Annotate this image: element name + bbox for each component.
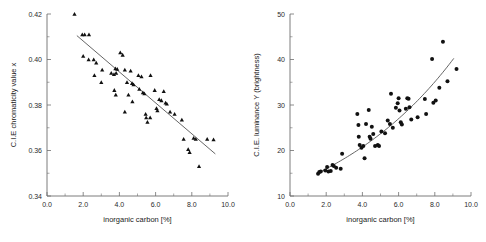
data-point [394, 106, 398, 110]
data-point [363, 156, 367, 160]
x-axis-tick-label: 10.0 [221, 201, 235, 208]
x-axis-tick-label: 2.0 [78, 201, 88, 208]
data-point [430, 57, 434, 61]
data-point [388, 122, 392, 126]
data-point [379, 129, 383, 133]
data-point [339, 167, 343, 171]
y-axis-title: C.I.E chromaticity value x [9, 62, 18, 147]
data-point [168, 110, 172, 114]
chart-panel-left: 0.02.04.06.08.010.00.340.360.380.400.42i… [0, 0, 243, 242]
x-axis-tick-label: 8.0 [187, 201, 197, 208]
y-axis-tick-label: 0.40 [28, 56, 42, 63]
x-axis-tick-label: 8.0 [430, 201, 440, 208]
x-axis-tick-label: 10.0 [464, 201, 478, 208]
data-point [180, 118, 184, 122]
data-point [407, 97, 411, 101]
data-point-group [72, 12, 215, 168]
data-point [361, 144, 365, 148]
data-point [205, 137, 209, 141]
y-axis-tick-label: 30 [277, 102, 285, 109]
data-point [407, 105, 411, 109]
x-axis-title: inorganic carbon [%] [346, 215, 414, 224]
data-point [329, 169, 333, 173]
data-point [211, 137, 215, 141]
data-point [455, 67, 459, 71]
data-point [118, 51, 122, 55]
data-point [123, 110, 127, 114]
data-point [136, 73, 140, 77]
data-point [87, 32, 91, 36]
x-axis-tick-label: 4.0 [358, 201, 368, 208]
data-point [72, 12, 76, 16]
data-point [370, 125, 374, 129]
data-point [126, 93, 130, 97]
data-point [404, 107, 408, 111]
data-point [123, 68, 127, 72]
data-point [391, 126, 395, 130]
y-axis-tick-label: 20 [277, 147, 285, 154]
data-point [325, 165, 329, 169]
axis-frame [47, 14, 228, 196]
data-point [197, 164, 201, 168]
data-point [130, 99, 134, 103]
data-point [100, 68, 104, 72]
x-axis-tick-label: 2.0 [321, 201, 331, 208]
data-point [92, 73, 96, 77]
data-point [148, 115, 152, 119]
scatter-plot-left: 0.02.04.06.08.010.00.340.360.380.400.42i… [0, 0, 243, 242]
data-point [334, 166, 338, 170]
data-point [397, 96, 401, 100]
data-point [154, 106, 158, 110]
data-point [129, 69, 133, 73]
y-axis-tick-label: 10 [277, 193, 285, 200]
data-point [437, 86, 441, 90]
data-point [340, 152, 344, 156]
data-point [145, 120, 149, 124]
data-point [441, 40, 445, 44]
data-point [383, 131, 387, 135]
data-point [400, 123, 404, 127]
y-axis-tick-label: 50 [277, 11, 285, 18]
x-axis-tick-label: 6.0 [151, 201, 161, 208]
y-axis-tick-label: 0.38 [28, 102, 42, 109]
data-point-group [316, 40, 458, 176]
data-point [398, 108, 402, 112]
data-point [173, 112, 177, 116]
two-panel-scatter-figure: 0.02.04.06.08.010.00.340.360.380.400.42i… [0, 0, 486, 242]
y-axis-tick-label: 40 [277, 56, 285, 63]
data-point [81, 54, 85, 58]
data-point [371, 132, 375, 136]
data-point [396, 101, 400, 105]
data-point [92, 57, 96, 61]
data-point [182, 137, 186, 141]
data-point [114, 93, 118, 97]
y-axis-tick-label: 0.34 [28, 193, 42, 200]
data-point [153, 88, 157, 92]
data-point [357, 135, 361, 139]
data-point [416, 115, 420, 119]
x-axis-tick-label: 4.0 [115, 201, 125, 208]
data-point [109, 71, 113, 75]
data-point [389, 92, 393, 96]
data-point [369, 137, 373, 141]
data-point [434, 98, 438, 102]
data-point [144, 112, 148, 116]
data-point [367, 108, 371, 112]
data-point [148, 73, 152, 77]
y-axis-tick-label: 0.42 [28, 11, 42, 18]
x-axis-tick-label: 6.0 [394, 201, 404, 208]
data-point [94, 61, 98, 65]
data-point [99, 80, 103, 84]
data-point [423, 97, 427, 101]
y-axis-title: C.I.E. luminance Y (brightness) [252, 53, 261, 157]
x-axis-tick-label: 0.0 [285, 201, 295, 208]
data-point [356, 123, 360, 127]
data-point [112, 88, 116, 92]
data-point [424, 112, 428, 116]
data-point [364, 122, 368, 126]
data-point [386, 118, 390, 122]
x-axis-tick-label: 0.0 [42, 201, 52, 208]
data-point [162, 89, 166, 93]
data-point [114, 71, 118, 75]
data-point [409, 118, 413, 122]
